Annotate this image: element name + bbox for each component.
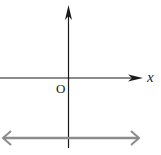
x-axis-label: x xyxy=(146,69,154,85)
origin-label: O xyxy=(56,81,65,96)
coordinate-diagram: x O xyxy=(0,0,161,155)
